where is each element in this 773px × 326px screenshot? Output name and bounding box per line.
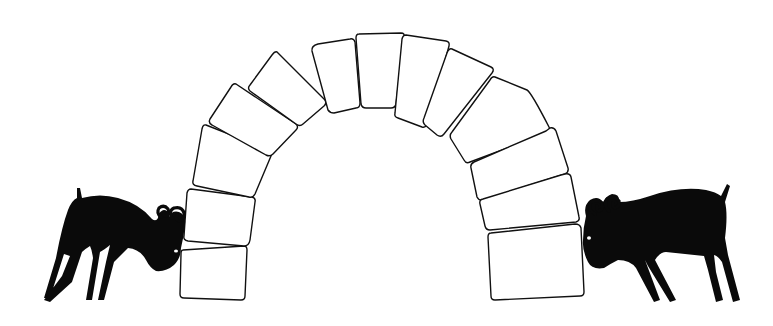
right-goat-icon: [583, 184, 740, 302]
left-goat-icon: [44, 188, 185, 302]
arch-stone: [488, 224, 584, 300]
goat-eye: [587, 236, 591, 240]
goat-eye: [174, 250, 178, 253]
arch-stone: [180, 246, 247, 300]
arch-and-goats-illustration: [0, 0, 773, 326]
illustration-scene: Two black goats butting heads against op…: [0, 0, 773, 326]
stone-arch: [180, 33, 584, 300]
horn-icon: [158, 206, 169, 217]
arch-stone: [184, 189, 255, 246]
